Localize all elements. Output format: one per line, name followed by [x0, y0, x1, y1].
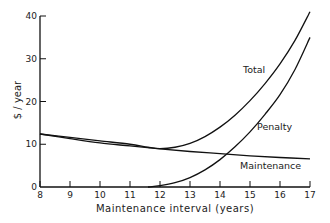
y-axis-label: $ / year — [12, 80, 23, 119]
x-tick-label: 9 — [67, 190, 73, 200]
x-tick-label: 13 — [184, 190, 195, 200]
y-tick-label: 30 — [26, 54, 38, 64]
x-tick-label: 10 — [94, 190, 106, 200]
line-chart: 891011121314151617010203040 Maintenance … — [0, 0, 330, 223]
x-tick-label: 14 — [214, 190, 226, 200]
x-tick-label: 15 — [244, 190, 255, 200]
x-tick-label: 17 — [304, 190, 315, 200]
y-tick-label: 20 — [26, 97, 38, 107]
x-axis-label: Maintenance interval (years) — [96, 203, 254, 214]
x-tick-label: 11 — [124, 190, 135, 200]
y-tick-label: 10 — [26, 139, 38, 149]
x-tick-label: 16 — [274, 190, 286, 200]
series-label-total: Total — [242, 64, 265, 75]
x-tick-label: 8 — [37, 190, 43, 200]
x-tick-label: 12 — [154, 190, 165, 200]
series-label-penalty: Penalty — [257, 121, 292, 132]
y-tick-label: 0 — [31, 182, 37, 192]
series-label-maintenance: Maintenance — [240, 160, 301, 171]
series-line-maintenance — [40, 134, 310, 159]
y-tick-label: 40 — [26, 11, 38, 21]
